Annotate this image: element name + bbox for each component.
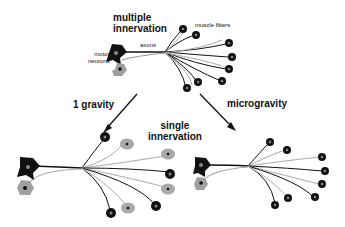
title-line-2: innervation [113,23,167,34]
right-network [193,138,329,209]
label-microgravity: microgravity [227,98,287,109]
diagram-canvas [0,0,345,227]
top-network [106,25,236,92]
black-motor-neuron-icon [193,157,211,177]
motor-neurons-line-2: neurons [88,58,110,65]
left-network [17,132,175,218]
motor-neurons-line-1: motor [88,51,110,58]
label-1-gravity: 1 gravity [73,99,114,110]
muscle-fibers-label: muscle fibers [195,22,230,29]
title-line-1: multiple [113,12,167,23]
axons-label: axons [140,42,156,49]
title-multiple-innervation: multiple innervation [113,12,167,34]
title-line-2: innervation [148,131,202,142]
motor-neurons-label: motor neurons [88,51,110,65]
title-single-innervation: single innervation [148,120,202,142]
title-line-1: single [148,120,202,131]
